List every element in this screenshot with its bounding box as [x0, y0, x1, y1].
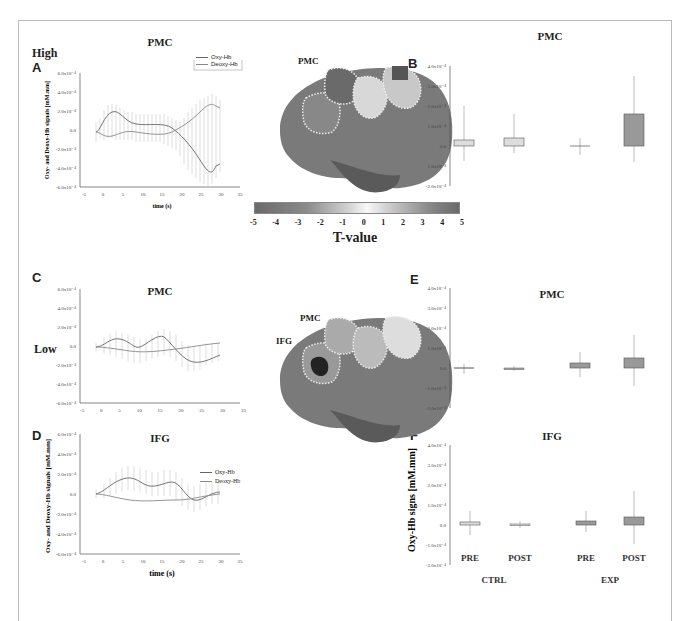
svg-text:30: 30 — [219, 559, 225, 564]
panel-c-xticks: -505101520253035 — [40, 408, 250, 413]
svg-text:0.0: 0.0 — [70, 344, 77, 349]
svg-text:-5: -5 — [82, 192, 87, 197]
svg-text:10: 10 — [141, 559, 147, 564]
svg-text:3.0x10⁻⁴: 3.0x10⁻⁴ — [428, 84, 447, 89]
svg-text:0.0: 0.0 — [440, 366, 447, 371]
svg-text:-5: -5 — [82, 559, 87, 564]
svg-text:25: 25 — [199, 559, 205, 564]
svg-text:35: 35 — [238, 192, 244, 197]
panel-e-bar-chart: 4.0x10⁻⁴3.0x10⁻⁴2.0x10⁻⁴1.0x10⁻⁴ 0.0-1.0… — [420, 283, 670, 413]
svg-text:Oxy- and Deoxy-Hb signals [mM.: Oxy- and Deoxy-Hb signals [mM.mm] — [44, 81, 51, 179]
panel-c-letter: C — [32, 270, 41, 285]
svg-text:6.0x10⁻⁴: 6.0x10⁻⁴ — [58, 71, 77, 76]
svg-text:4.0x10⁻⁴: 4.0x10⁻⁴ — [428, 64, 447, 69]
svg-text:4.0x10⁻⁴: 4.0x10⁻⁴ — [58, 452, 77, 457]
svg-text:6.0x10⁻⁴: 6.0x10⁻⁴ — [58, 287, 77, 292]
brain-top-pmc-label: PMC — [298, 56, 319, 66]
svg-text:2.0x10⁻⁴: 2.0x10⁻⁴ — [428, 326, 447, 331]
svg-text:2.0x10⁻⁴: 2.0x10⁻⁴ — [428, 483, 447, 488]
svg-text:-6.0x10⁻⁴: -6.0x10⁻⁴ — [56, 185, 76, 190]
svg-text:Oxy-Hb signs [mM.mm]: Oxy-Hb signs [mM.mm] — [406, 448, 417, 552]
svg-text:1.0x10⁻⁴: 1.0x10⁻⁴ — [428, 124, 447, 129]
svg-text:3.0x10⁻⁴: 3.0x10⁻⁴ — [428, 463, 447, 468]
svg-text:-2.0x10⁻⁴: -2.0x10⁻⁴ — [426, 184, 446, 189]
svg-text:1.0x10⁻⁴: 1.0x10⁻⁴ — [428, 503, 447, 508]
svg-text:4.0x10⁻⁴: 4.0x10⁻⁴ — [428, 443, 447, 448]
svg-text:-6.0x10⁻⁴: -6.0x10⁻⁴ — [56, 552, 76, 557]
svg-text:3.0x10⁻⁴: 3.0x10⁻⁴ — [428, 306, 447, 311]
panel-d-legend: Oxy-Hb Deoxy-Hb — [200, 468, 240, 486]
level-high-label: High — [32, 46, 57, 61]
panel-b-title: PMC — [510, 30, 590, 42]
svg-text:CTRL: CTRL — [481, 575, 506, 585]
svg-text:PRE: PRE — [461, 553, 479, 563]
panel-c-line-chart: 6.0x10⁻⁴4.0x10⁻⁴2.0x10⁻⁴ 0.0-2.0x10⁻⁴-4.… — [40, 285, 250, 410]
svg-text:-2.0x10⁻⁴: -2.0x10⁻⁴ — [56, 147, 76, 152]
panel-b-bar-chart: 4.0x10⁻⁴3.0x10⁻⁴2.0x10⁻⁴1.0x10⁻⁴ 0.01.0x… — [420, 60, 670, 200]
svg-text:Oxy- and Deoxy-Hb signals [mM.: Oxy- and Deoxy-Hb signals [mM.mm] — [44, 439, 52, 553]
svg-text:15: 15 — [160, 192, 166, 197]
panel-a-title: PMC — [120, 36, 200, 48]
svg-text:-1.0x10⁻⁴: -1.0x10⁻⁴ — [426, 386, 446, 391]
svg-text:4.0x10⁻⁴: 4.0x10⁻⁴ — [58, 306, 77, 311]
colorbar-label: T-value — [310, 230, 400, 246]
svg-text:4.0x10⁻⁴: 4.0x10⁻⁴ — [428, 286, 447, 291]
svg-text:time (s): time (s) — [149, 569, 175, 578]
svg-text:5: 5 — [122, 192, 125, 197]
svg-text:-2.0x10⁻⁴: -2.0x10⁻⁴ — [56, 363, 76, 368]
svg-text:-2.0x10⁻⁴: -2.0x10⁻⁴ — [426, 406, 446, 411]
panel-d-line-chart: 6.0x10⁻⁴4.0x10⁻⁴2.0x10⁻⁴ 0.0-2.0x10⁻⁴-4.… — [40, 430, 250, 590]
svg-text:10: 10 — [141, 192, 147, 197]
svg-text:2.0x10⁻⁴: 2.0x10⁻⁴ — [58, 472, 77, 477]
svg-text:4.0x10⁻⁴: 4.0x10⁻⁴ — [58, 90, 77, 95]
panel-e-letter: E — [410, 272, 419, 287]
svg-text:0: 0 — [102, 192, 105, 197]
brain-bottom-pmc-label: PMC — [300, 313, 321, 323]
svg-text:PRE: PRE — [577, 553, 595, 563]
svg-text:0.0: 0.0 — [70, 492, 77, 497]
svg-text:0.0: 0.0 — [70, 128, 77, 133]
svg-text:35: 35 — [238, 559, 244, 564]
svg-text:0: 0 — [102, 559, 105, 564]
svg-text:1.0x10⁻⁴: 1.0x10⁻⁴ — [428, 346, 447, 351]
svg-text:-2.0x10⁻⁴: -2.0x10⁻⁴ — [56, 512, 76, 517]
colorbar — [254, 202, 460, 214]
svg-text:6.0x10⁻⁴: 6.0x10⁻⁴ — [58, 432, 77, 437]
svg-text:-2.0x10⁻⁴: -2.0x10⁻⁴ — [426, 563, 446, 568]
svg-text:30: 30 — [219, 192, 225, 197]
svg-text:20: 20 — [180, 559, 186, 564]
svg-text:15: 15 — [160, 559, 166, 564]
svg-text:EXP: EXP — [601, 575, 620, 585]
panel-f-bar-chart: Oxy-Hb signs [mM.mm] 4.0x10⁻⁴3.0x10⁻⁴2.0… — [400, 440, 670, 590]
svg-text:2.0x10⁻⁴: 2.0x10⁻⁴ — [58, 109, 77, 114]
svg-text:5: 5 — [122, 559, 125, 564]
svg-text:-6.0x10⁻⁴: -6.0x10⁻⁴ — [56, 401, 76, 406]
colorbar-ticks: -5-4-3-2-1012345 — [250, 218, 464, 227]
svg-text:2.0x10⁻⁴: 2.0x10⁻⁴ — [58, 325, 77, 330]
svg-text:POST: POST — [622, 553, 646, 563]
svg-text:-4.0x10⁻⁴: -4.0x10⁻⁴ — [56, 532, 76, 537]
svg-text:POST: POST — [508, 553, 532, 563]
panel-a-legend: Oxy-Hb Deoxy-Hb — [196, 54, 238, 68]
svg-text:0.0: 0.0 — [440, 523, 447, 528]
svg-text:-1.0x10⁻⁴: -1.0x10⁻⁴ — [426, 543, 446, 548]
svg-text:25: 25 — [199, 192, 205, 197]
brain-bottom-ifg-label: IFG — [276, 336, 292, 346]
svg-text:0.0: 0.0 — [440, 144, 447, 149]
svg-text:2.0x10⁻⁴: 2.0x10⁻⁴ — [428, 104, 447, 109]
svg-text:1.0x10⁻⁴: 1.0x10⁻⁴ — [428, 164, 447, 169]
panel-a-line-chart: 6.0x10⁻⁴4.0x10⁻⁴2.0x10⁻⁴ 0.0-2.0x10⁻⁴-4.… — [40, 60, 250, 220]
svg-text:time (s): time (s) — [152, 203, 171, 210]
svg-text:-4.0x10⁻⁴: -4.0x10⁻⁴ — [56, 382, 76, 387]
svg-text:-4.0x10⁻⁴: -4.0x10⁻⁴ — [56, 166, 76, 171]
svg-text:20: 20 — [180, 192, 186, 197]
